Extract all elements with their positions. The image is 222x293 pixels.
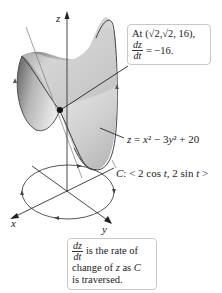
rate-text-1: is the rate of <box>86 245 138 257</box>
curve-part3: > <box>199 167 208 179</box>
rate-callout-line1: dz dt is the rate of <box>72 241 152 262</box>
rate-C: C <box>134 262 141 273</box>
curve-part1: : < 2 cos <box>123 167 163 179</box>
point-callout-coords: At (√2,√2, 16), <box>132 28 206 40</box>
x-axis <box>12 168 114 218</box>
rate-text-2a: change of <box>72 262 116 273</box>
surface-equation-label: z = x² − 3y² + 20 <box>127 134 199 145</box>
point-marker <box>57 107 63 113</box>
dz-dt-fraction: dz dt <box>72 241 83 262</box>
frac-denominator: dt <box>73 252 83 262</box>
rate-callout-line2: change of z as C <box>72 262 152 274</box>
curve-arrow-right <box>112 189 116 194</box>
rate-text-2b: as <box>120 262 134 273</box>
curve-arrow-left <box>20 190 24 195</box>
curve-part2: , 2 sin <box>167 167 196 179</box>
saddle-surface-diagram: z x y z = x² − 3y² + 20 C: < 2 cos t, 2 … <box>0 0 222 293</box>
point-callout-derivative: dz dt = −16. <box>132 40 206 61</box>
y-axis <box>32 166 110 222</box>
curve-arrow-top <box>77 164 82 168</box>
x-axis-label: x <box>11 218 16 229</box>
point-callout: At (√2,√2, 16), dz dt = −16. <box>127 24 211 65</box>
eq-part1: ² − 3 <box>148 133 169 145</box>
rate-callout-line3: is traversed. <box>72 274 152 286</box>
z-axis-label: z <box>56 13 60 24</box>
z-axis-arrow <box>65 11 70 19</box>
dz-dt-fraction: dz dt <box>132 40 143 61</box>
rate-callout: dz dt is the rate of change of z as C is… <box>67 238 157 290</box>
curve-C-label: C: < 2 cos t, 2 sin t > <box>116 168 208 179</box>
surface-arrow-left <box>13 78 17 83</box>
derivative-value: = −16. <box>146 45 174 57</box>
curve-arrow-bottom <box>54 216 59 220</box>
y-axis-label: y <box>102 224 107 235</box>
eq-part2: ² + 20 <box>173 133 199 145</box>
frac-denominator: dt <box>133 51 143 61</box>
